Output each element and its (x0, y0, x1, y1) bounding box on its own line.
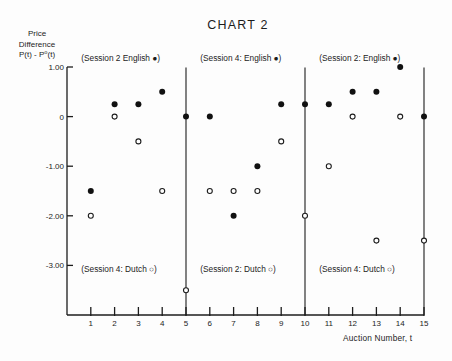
x-tick-label: 10 (301, 319, 310, 328)
x-tick-label: 15 (420, 319, 429, 328)
x-tick-label: 14 (396, 319, 405, 328)
english-data-point (207, 114, 213, 120)
english-session-annotation: (Session 2: English ●) (319, 53, 400, 63)
dutch-data-point (160, 189, 165, 194)
dutch-data-point (136, 139, 141, 144)
y-axis-label: Price Difference P(t) - P⁰(t) (19, 29, 56, 59)
dutch-session-annotation: (Session 4: Dutch ○) (319, 264, 395, 274)
english-data-point (112, 101, 118, 107)
english-data-point (231, 213, 237, 219)
english-session-annotation: (Session 4: English ●) (200, 53, 281, 63)
x-ticks: 123456789101112131415 (89, 307, 429, 328)
y-ticks: 1.000-1.00-2.00-3.00 (46, 63, 73, 270)
scatter-chart: CHART 2 Price Difference P(t) - P⁰(t) Au… (0, 0, 452, 361)
dutch-data-point (350, 114, 355, 119)
dutch-session-annotation: (Session 4: Dutch ○) (81, 264, 157, 274)
y-tick-label: -2.00 (46, 212, 65, 221)
dutch-data-point (231, 189, 236, 194)
english-data-point (302, 101, 308, 107)
x-tick-label: 1 (89, 319, 94, 328)
dutch-data-point (255, 189, 260, 194)
y-tick-label: -3.00 (46, 261, 65, 270)
x-tick-label: 3 (136, 319, 141, 328)
y-axis-label-line-1: Price (28, 29, 47, 38)
data-points (88, 64, 427, 293)
dutch-data-point (88, 213, 93, 218)
y-tick-label: 1.00 (48, 63, 64, 72)
english-data-point (373, 89, 379, 95)
dutch-data-point (374, 238, 379, 243)
x-tick-label: 13 (372, 319, 381, 328)
chart-figure: CHART 2 Price Difference P(t) - P⁰(t) Au… (0, 0, 452, 361)
dutch-data-point (398, 114, 403, 119)
y-axis-label-line-3: P(t) - P⁰(t) (19, 50, 55, 59)
y-axis-label-line-2: Difference (19, 40, 56, 49)
axes (67, 67, 424, 315)
english-data-point (183, 114, 189, 120)
dutch-data-point (422, 238, 427, 243)
english-data-point (326, 101, 332, 107)
x-tick-label: 11 (325, 319, 334, 328)
english-data-point (278, 101, 284, 107)
x-tick-label: 8 (255, 319, 260, 328)
dutch-data-point (326, 164, 331, 169)
english-data-point (397, 64, 403, 70)
x-axis-label: Auction Number, t (343, 333, 413, 343)
x-tick-label: 2 (112, 319, 117, 328)
x-tick-label: 12 (348, 319, 357, 328)
english-data-point (421, 114, 427, 120)
english-data-point (88, 188, 94, 194)
english-data-point (254, 163, 260, 169)
dutch-data-point (279, 139, 284, 144)
dutch-data-point (207, 189, 212, 194)
dutch-data-point (112, 114, 117, 119)
english-data-point (135, 101, 141, 107)
y-tick-label: 0 (60, 113, 65, 122)
english-data-point (159, 89, 165, 95)
dutch-session-annotation: (Session 2: Dutch ○) (200, 264, 276, 274)
chart-title: CHART 2 (207, 18, 268, 32)
dutch-data-point (303, 213, 308, 218)
english-session-annotation: (Session 2 English ●) (81, 53, 160, 63)
x-tick-label: 7 (231, 319, 236, 328)
session-annotations: (Session 2 English ●)(Session 4: English… (81, 53, 400, 274)
x-tick-label: 5 (184, 319, 189, 328)
x-tick-label: 9 (279, 319, 284, 328)
y-tick-label: -1.00 (46, 162, 65, 171)
x-tick-label: 6 (208, 319, 213, 328)
english-data-point (350, 89, 356, 95)
x-tick-label: 4 (160, 319, 165, 328)
dutch-data-point (184, 288, 189, 293)
